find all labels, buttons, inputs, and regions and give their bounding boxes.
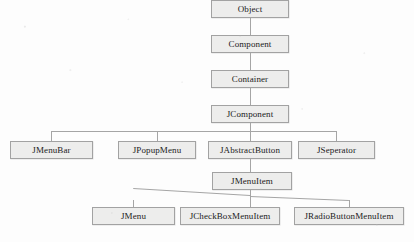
node-jradiobuttonmenuitem-label: JRadioButtonMenuItem	[305, 211, 394, 220]
connector-level5-bus	[51, 131, 337, 132]
node-jcomponent: JComponent	[211, 105, 289, 123]
node-component: Component	[211, 35, 289, 53]
connector-drop-jabstractbutton	[250, 131, 251, 141]
node-component-label: Component	[229, 39, 272, 48]
node-object-label: Object	[238, 4, 263, 13]
connector-container-to-jcomponent	[250, 88, 251, 105]
node-object: Object	[211, 0, 289, 18]
connector-drop-jradiobuttonmenuitem	[349, 200, 350, 207]
node-jabstractbutton: JAbstractButton	[208, 141, 292, 159]
node-jpopupmenu: JPopupMenu	[118, 141, 196, 159]
connector-drop-jpopupmenu	[157, 131, 158, 141]
node-jabstractbutton-label: JAbstractButton	[220, 145, 280, 154]
node-container: Container	[211, 70, 289, 88]
connector-object-to-component	[250, 18, 251, 35]
node-container-label: Container	[232, 74, 268, 83]
connector-drop-jseperator	[336, 131, 337, 141]
node-jmenuitem-label: JMenuItem	[231, 176, 273, 185]
node-jpopupmenu-label: JPopupMenu	[133, 145, 182, 154]
node-jmenu: JMenu	[92, 207, 175, 225]
connector-drop-jmenubar	[51, 131, 52, 141]
connector-drop-jcheckboxmenuitem	[250, 196, 251, 207]
node-jcheckboxmenuitem-label: JCheckBoxMenuItem	[190, 211, 271, 220]
connector-component-to-container	[250, 53, 251, 70]
connector-diagonal-to-jradiobuttonmenuitem	[250, 196, 349, 201]
paper-scan-texture	[0, 0, 414, 242]
connector-drop-jmenu	[133, 200, 134, 207]
node-jseperator: JSeperator	[298, 141, 375, 159]
node-jseperator-label: JSeperator	[317, 145, 356, 154]
node-jmenubar: JMenuBar	[10, 141, 93, 159]
node-jcheckboxmenuitem: JCheckBoxMenuItem	[180, 207, 280, 225]
node-jmenu-label: JMenu	[121, 211, 146, 220]
class-hierarchy-diagram: Object Component Container JComponent JM…	[0, 0, 414, 242]
node-jradiobuttonmenuitem: JRadioButtonMenuItem	[294, 207, 404, 225]
node-jmenuitem: JMenuItem	[212, 172, 292, 190]
node-jmenubar-label: JMenuBar	[32, 145, 70, 154]
node-jcomponent-label: JComponent	[227, 109, 274, 118]
connector-jabstractbutton-to-jmenuitem	[250, 159, 251, 172]
